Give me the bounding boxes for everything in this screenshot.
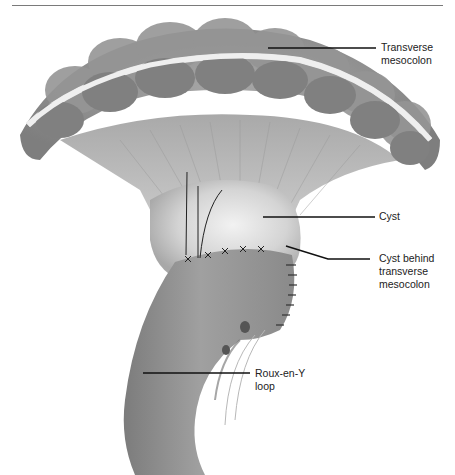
label-line: Transverse [381, 41, 433, 54]
label-line: mesocolon [379, 278, 434, 291]
label-cyst: Cyst [379, 210, 400, 223]
label-line: Cyst behind [379, 252, 434, 265]
label-line: transverse [379, 265, 434, 278]
label-line: Roux-en-Y [255, 367, 305, 380]
label-line: loop [255, 380, 305, 393]
label-line: mesocolon [381, 54, 433, 67]
label-line: Cyst [379, 210, 400, 223]
roux-loop-shape [124, 249, 297, 475]
label-transverse-mesocolon: Transverse mesocolon [381, 41, 433, 67]
label-cyst-behind-mesocolon: Cyst behind transverse mesocolon [379, 252, 434, 291]
anatomy-illustration [0, 0, 455, 475]
label-roux-en-y-loop: Roux-en-Y loop [255, 367, 305, 393]
